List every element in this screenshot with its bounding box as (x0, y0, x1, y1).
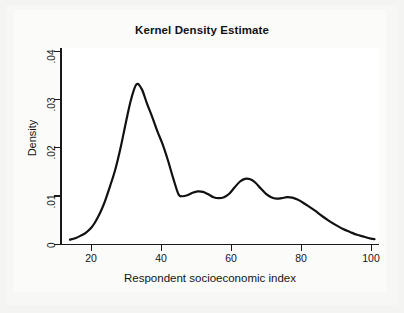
x-tick-3 (301, 245, 302, 251)
chart-page: Kernel Density Estimate 0 .01 .02 .03 .0… (0, 0, 404, 313)
y-tick-label-2: .02 (47, 146, 58, 160)
x-tick-label-3: 80 (281, 252, 321, 264)
y-tick-label-0-wrap: 0 (28, 237, 52, 251)
chart-title: Kernel Density Estimate (0, 24, 404, 36)
y-tick-label-1: .01 (47, 195, 58, 209)
x-tick-label-0: 20 (71, 252, 111, 264)
x-tick-4 (371, 245, 372, 251)
x-tick-2 (231, 245, 232, 251)
x-axis-line (60, 244, 379, 246)
x-tick-0 (91, 245, 92, 251)
y-tick-label-0: 0 (47, 243, 58, 249)
y-tick-label-1-wrap: .01 (28, 189, 52, 203)
x-tick-label-4: 100 (351, 252, 391, 264)
x-tick-label-1: 40 (141, 252, 181, 264)
plot-area (61, 48, 379, 244)
x-tick-label-2: 60 (211, 252, 251, 264)
y-tick-label-4-wrap: .04 (28, 44, 52, 58)
y-axis-label: Density (26, 98, 38, 178)
y-tick-label-4: .04 (47, 50, 58, 64)
y-tick-label-3: .03 (47, 98, 58, 112)
x-axis-label: Respondent socioeconomic index (40, 272, 380, 284)
x-tick-1 (161, 245, 162, 251)
